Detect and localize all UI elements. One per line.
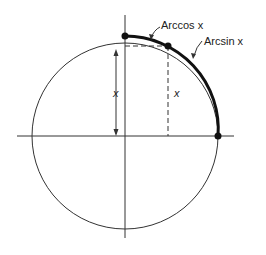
point-right — [215, 133, 222, 140]
point-top — [122, 33, 129, 40]
arrow-head-up-icon — [114, 49, 119, 56]
arcsin-pointer — [194, 41, 202, 56]
unit-circle-diagram: Arccos x Arcsin x x x — [0, 0, 266, 255]
label-x-left: x — [112, 87, 119, 99]
point-mid — [165, 43, 172, 50]
label-arccos: Arccos x — [161, 19, 204, 31]
arcsin-arrow-icon — [191, 53, 196, 59]
arc-arcsin — [125, 36, 218, 136]
label-x-right: x — [173, 87, 180, 99]
label-arcsin: Arcsin x — [204, 35, 244, 47]
arrow-head-down-icon — [114, 129, 119, 136]
